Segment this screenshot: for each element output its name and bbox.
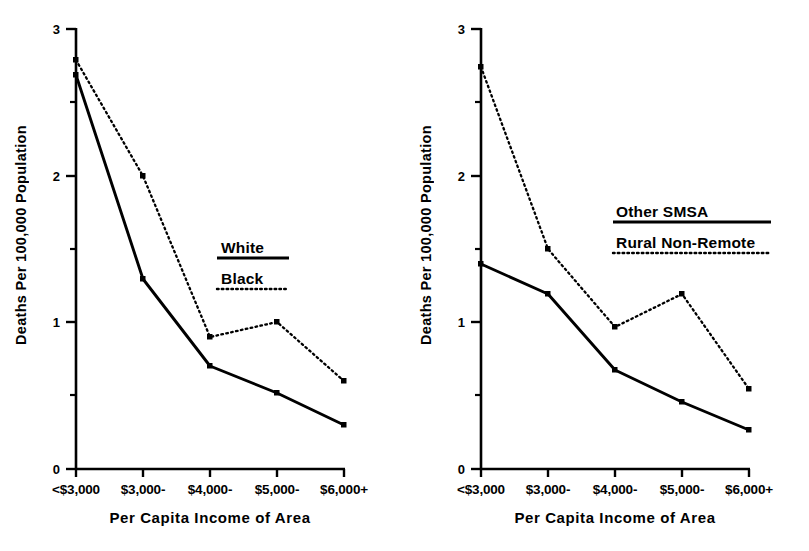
series-markers-smsa-right xyxy=(478,261,752,433)
legend-label-dotted-left: Black xyxy=(221,270,264,287)
y-tick-label-2-left: 2 xyxy=(53,169,60,184)
chart-panel-left: Deaths Per 100,000 Population 3 2 1 xyxy=(0,0,404,551)
x-axis-title-right: Per Capita Income of Area xyxy=(514,509,715,526)
y-tick-label-3-right: 3 xyxy=(458,22,465,37)
x-tick-label-1-right: $3,000- xyxy=(526,482,570,497)
figure-two-panel-line-charts: Deaths Per 100,000 Population 3 2 1 xyxy=(0,0,809,551)
legend-label-solid-left: White xyxy=(221,239,264,256)
legend-label-dotted-right: Rural Non-Remote xyxy=(616,234,755,251)
plot-area-left: 3 2 1 0 xyxy=(0,0,404,551)
y-tick-label-2-right: 2 xyxy=(458,169,465,184)
y-tick-label-3-left: 3 xyxy=(53,22,60,37)
x-tick-label-3-left: $5,000- xyxy=(255,482,299,497)
x-axis-title-left: Per Capita Income of Area xyxy=(109,509,310,526)
series-line-smsa-right xyxy=(481,264,749,430)
y-tick-label-0-right: 0 xyxy=(458,462,465,477)
x-tick-label-4-right: $6,000+ xyxy=(725,482,773,497)
series-line-black-left xyxy=(76,60,344,381)
legend-label-solid-right: Other SMSA xyxy=(616,203,708,220)
x-tick-label-1-left: $3,000- xyxy=(121,482,165,497)
series-line-rural-right xyxy=(481,67,749,389)
series-line-white-left xyxy=(76,75,344,425)
series-markers-black-left xyxy=(73,57,347,384)
y-tick-label-0-left: 0 xyxy=(53,462,60,477)
x-tick-label-2-left: $4,000- xyxy=(188,482,232,497)
chart-panel-right: Deaths Per 100,000 Population 3 2 1 xyxy=(405,0,809,551)
series-markers-rural-right xyxy=(478,64,752,392)
x-tick-label-4-left: $6,000+ xyxy=(320,482,368,497)
x-tick-label-0-right: <$3,000 xyxy=(457,482,505,497)
x-tick-label-0-left: <$3,000 xyxy=(52,482,100,497)
y-tick-label-1-left: 1 xyxy=(53,315,60,330)
plot-area-right: 3 2 1 0 xyxy=(405,0,809,551)
y-tick-label-1-right: 1 xyxy=(458,315,465,330)
x-tick-label-2-right: $4,000- xyxy=(593,482,637,497)
x-tick-label-3-right: $5,000- xyxy=(660,482,704,497)
